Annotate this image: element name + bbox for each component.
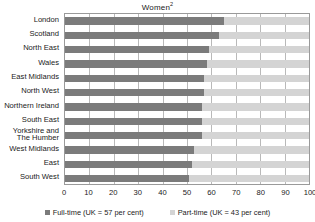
bar-segment-full-time [65, 103, 202, 110]
legend-label: Full-time (UK = 57 per cent) [53, 208, 144, 217]
y-axis-label: South West [0, 173, 59, 181]
bar-segment-full-time [65, 89, 204, 96]
bar-track [65, 17, 309, 24]
bar-segment-full-time [65, 17, 224, 24]
chart-legend: Full-time (UK = 57 per cent)Part-time (U… [0, 205, 315, 219]
bar-segment-full-time [65, 132, 202, 139]
bar-track [65, 175, 309, 182]
x-axis-tick-label: 0 [52, 188, 76, 197]
y-axis-label: East [0, 159, 59, 167]
bar-row [65, 100, 309, 114]
x-axis-tick-label: 20 [101, 188, 125, 197]
bar-track [65, 146, 309, 153]
bar-track [65, 103, 309, 110]
x-axis-tick-label: 60 [200, 188, 224, 197]
bar-track [65, 118, 309, 125]
bar-track [65, 32, 309, 39]
x-axis-tick-label: 50 [175, 188, 199, 197]
y-axis-label: Yorkshire andThe Humber [0, 127, 59, 143]
x-axis-tick-labels: 0102030405060708090100 [64, 186, 310, 198]
bar-segment-full-time [65, 32, 219, 39]
chart-title: Women2 [0, 1, 315, 12]
bar-segment-full-time [65, 75, 204, 82]
chart-title-footnote-marker: 2 [170, 1, 173, 7]
bar-track [65, 132, 309, 139]
bar-row [65, 43, 309, 57]
x-axis-tick-label: 80 [249, 188, 273, 197]
bar-segment-full-time [65, 60, 207, 67]
y-axis-label: London [0, 16, 59, 24]
legend-swatch-full-time [45, 210, 50, 215]
bar-track [65, 60, 309, 67]
legend-swatch-part-time [170, 210, 175, 215]
bar-segment-full-time [65, 46, 209, 53]
bar-row [65, 86, 309, 100]
x-axis-tick-label: 40 [150, 188, 174, 197]
bar-rows [65, 14, 309, 184]
plot-area [64, 13, 310, 185]
bar-track [65, 89, 309, 96]
y-axis-label: South East [0, 116, 59, 124]
bar-row [65, 172, 309, 186]
y-axis-label: North West [0, 87, 59, 95]
x-axis-tick-label: 30 [126, 188, 150, 197]
bar-row [65, 143, 309, 157]
bar-segment-full-time [65, 118, 202, 125]
x-axis-tick-label: 10 [77, 188, 101, 197]
bar-row [65, 57, 309, 71]
bar-row [65, 114, 309, 128]
y-axis-label: Wales [0, 59, 59, 67]
y-axis-label: East Midlands [0, 73, 59, 81]
x-axis-tick-label: 70 [224, 188, 248, 197]
bar-row [65, 14, 309, 28]
bar-row [65, 129, 309, 143]
y-axis-label: Scotland [0, 30, 59, 38]
bar-row [65, 71, 309, 85]
bar-segment-full-time [65, 146, 194, 153]
bar-track [65, 161, 309, 168]
y-axis-label: North East [0, 44, 59, 52]
bar-segment-full-time [65, 161, 192, 168]
stacked-bar-chart: Women2 LondonScotlandNorth EastWalesEast… [0, 0, 315, 222]
bar-segment-full-time [65, 175, 189, 182]
bar-row [65, 28, 309, 42]
y-axis-label: West Midlands [0, 145, 59, 153]
legend-item[interactable]: Part-time (UK = 43 per cent) [170, 208, 271, 217]
bar-track [65, 75, 309, 82]
legend-item[interactable]: Full-time (UK = 57 per cent) [45, 208, 144, 217]
y-axis-label: Northern Ireland [0, 102, 59, 110]
x-axis-tick-label: 100 [298, 188, 315, 197]
bar-track [65, 46, 309, 53]
chart-title-text: Women [142, 3, 170, 12]
x-axis-tick-label: 90 [273, 188, 297, 197]
y-axis-labels: LondonScotlandNorth EastWalesEast Midlan… [0, 13, 62, 185]
bar-row [65, 157, 309, 171]
legend-label: Part-time (UK = 43 per cent) [178, 208, 271, 217]
